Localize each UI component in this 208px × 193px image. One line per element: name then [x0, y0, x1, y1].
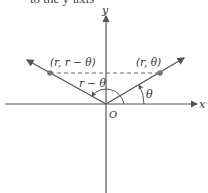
arc-theta: [139, 85, 144, 104]
polar-symmetry-diagram: to the y-axis x y O (r, r − θ) (r, θ) θ …: [0, 0, 208, 193]
point-label-r-r-minus-theta: (r, r − θ): [50, 56, 96, 68]
x-axis-label: x: [199, 98, 206, 111]
point-r-r-minus-theta: [47, 70, 53, 76]
caption-text: to the y-axis: [30, 0, 94, 6]
point-label-r-theta: (r, θ): [136, 56, 161, 68]
point-r-theta: [157, 70, 163, 76]
angle-label-r-minus-theta: r − θ: [79, 77, 106, 89]
origin-label: O: [109, 109, 117, 120]
angle-label-theta: θ: [146, 88, 153, 101]
y-axis-label: y: [101, 4, 109, 17]
